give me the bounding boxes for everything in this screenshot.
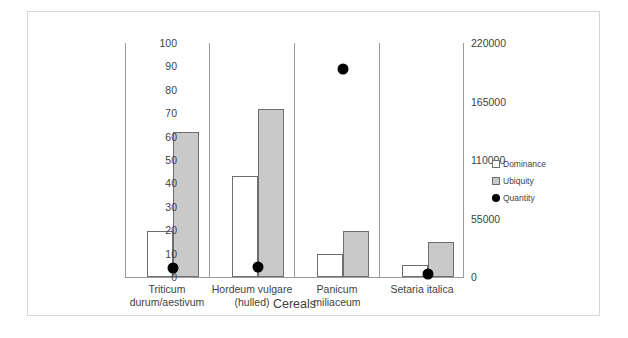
y2-tick-label: 0: [471, 272, 477, 283]
square-open-icon: [492, 160, 500, 168]
y2-tick-label: 220000: [471, 38, 506, 49]
legend-item-label: Quantity: [503, 193, 535, 203]
chart-legend: Dominance Ubiquity Quantity: [492, 155, 592, 206]
y2-tick-label: 55000: [471, 213, 500, 224]
y2-tick-label: 165000: [471, 96, 506, 107]
x-category-label: Setaria italica: [372, 283, 472, 296]
y-tick-label: 50: [165, 155, 177, 166]
y-tick-label: 80: [165, 85, 177, 96]
category-separator: [209, 43, 210, 278]
dot-quantity-panicum: [338, 64, 349, 75]
circle-filled-black-icon: [492, 194, 500, 202]
y-tick-label: 100: [159, 38, 177, 49]
y-tick-label: 70: [165, 108, 177, 119]
y-tick-label: 10: [165, 248, 177, 259]
category-separator: [294, 43, 295, 278]
y-tick-label: 0: [171, 272, 177, 283]
category-separator: [379, 43, 380, 278]
bar-ubiquity-hordeum: [258, 109, 284, 277]
figure-frame: 100 90 80 70 60 50 40 30 20 10 0 220000 …: [27, 11, 600, 316]
y-tick-label: 90: [165, 61, 177, 72]
y-axis-right-line: [463, 43, 464, 278]
y-tick-label: 40: [165, 178, 177, 189]
dot-quantity-hordeum: [253, 262, 264, 273]
legend-item-ubiquity: Ubiquity: [492, 172, 592, 189]
legend-item-label: Dominance: [503, 159, 546, 169]
bar-ubiquity-panicum: [343, 231, 369, 277]
plot-area: 100 90 80 70 60 50 40 30 20 10 0 220000 …: [125, 43, 464, 278]
dot-quantity-setaria: [423, 269, 434, 280]
legend-item-quantity: Quantity: [492, 189, 592, 206]
y-tick-label: 30: [165, 202, 177, 213]
bar-dominance-panicum: [317, 254, 343, 277]
y-axis-left-ticks: 100 90 80 70 60 50 40 30 20 10 0: [117, 43, 177, 278]
square-filled-gray-icon: [492, 177, 500, 185]
legend-item-dominance: Dominance: [492, 155, 592, 172]
legend-item-label: Ubiquity: [503, 176, 534, 186]
y-tick-label: 60: [165, 131, 177, 142]
clipped-caption: [40, 327, 588, 331]
y-tick-label: 20: [165, 225, 177, 236]
x-axis-title: Cereals: [125, 297, 464, 311]
